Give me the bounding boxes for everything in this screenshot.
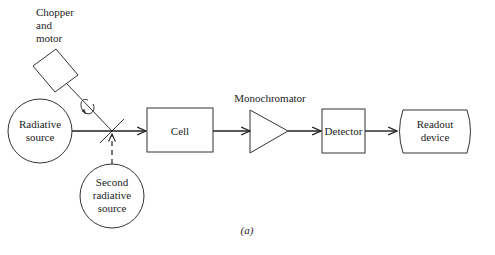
svg-text:Second: Second xyxy=(96,176,129,188)
svg-text:device: device xyxy=(421,131,450,143)
svg-text:Readout: Readout xyxy=(417,118,454,130)
second-radiative-source: Second radiative source xyxy=(80,164,144,228)
svg-text:and: and xyxy=(36,19,52,31)
cell-box: Cell xyxy=(147,108,213,152)
readout-device: Readout device xyxy=(400,110,471,153)
detector-box: Detector xyxy=(322,109,365,153)
svg-text:source: source xyxy=(98,202,127,214)
instrument-block-diagram: Chopper and motor Radiative source Secon… xyxy=(0,0,495,255)
svg-text:Monochromator: Monochromator xyxy=(234,92,306,104)
svg-text:Detector: Detector xyxy=(325,125,363,137)
monochromator: Monochromator xyxy=(234,92,306,153)
svg-text:radiative: radiative xyxy=(93,189,132,201)
figure-caption: (a) xyxy=(241,224,254,237)
radiative-source: Radiative source xyxy=(8,99,72,163)
svg-text:Chopper: Chopper xyxy=(36,6,74,18)
svg-text:source: source xyxy=(26,131,55,143)
svg-text:Radiative: Radiative xyxy=(19,118,61,130)
chopper-label: Chopper and motor xyxy=(36,6,74,44)
svg-text:Cell: Cell xyxy=(171,125,189,137)
svg-text:motor: motor xyxy=(36,32,63,44)
